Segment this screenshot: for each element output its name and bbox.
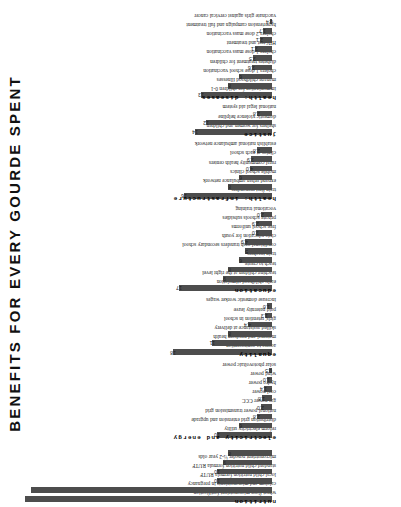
bar-value-label: 3.9	[246, 157, 253, 163]
bar	[250, 166, 272, 172]
bar	[248, 322, 272, 328]
bar-value-label: 4.9	[241, 239, 248, 245]
bar-value-label: 2.0	[257, 212, 264, 218]
bar-value-label: 2.8	[252, 111, 259, 117]
bar-value-label: 4.4	[244, 322, 251, 328]
bar	[239, 257, 272, 263]
group-label: education	[234, 287, 276, 294]
bar-value-label: 2.0	[257, 405, 264, 411]
bar-value-label: 6	[239, 258, 242, 264]
bar	[206, 120, 272, 126]
bar	[239, 423, 272, 429]
bar-value-label: 3.5	[249, 56, 256, 62]
bar-value-label: 1.3	[261, 313, 268, 319]
bar-value-label: 2.1	[256, 37, 263, 43]
bar-value-label: 10	[214, 469, 220, 475]
rotated-figure-wrapper: BENEFITS FOR EVERY GOURDE SPENT wheat fl…	[0, 0, 401, 507]
bar	[245, 239, 272, 245]
category-label: national legal aid system	[223, 105, 276, 111]
bar	[223, 460, 272, 466]
group-label: health: diseases	[201, 94, 276, 101]
bar	[228, 450, 272, 456]
bar	[239, 74, 272, 80]
bar-value-label: 0.5	[265, 368, 272, 374]
bar-value-label: 1.4	[260, 386, 267, 392]
bar-value-label: 0.4	[266, 19, 273, 25]
bar-value-label: 1.8	[258, 396, 265, 402]
bar	[228, 331, 272, 337]
bar-value-label: 5	[245, 249, 248, 255]
category-label: solar photovoltaic power	[222, 362, 276, 368]
bar-value-label: 3.6	[248, 65, 255, 71]
bar-value-label: 2.9	[252, 221, 259, 227]
bar-value-label: 2.8	[252, 414, 259, 420]
plot-area: wheat flour micronutrient fortificationc…	[30, 0, 272, 507]
chart-title: BENEFITS FOR EVERY GOURDE SPENT	[6, 0, 23, 507]
bar-value-label: 11	[209, 340, 214, 346]
bar-value-label: 12	[203, 120, 209, 126]
category-label: hypertension campaign and full treatment	[186, 22, 276, 28]
group-label: justice	[243, 131, 276, 138]
bar-value-label: 14	[192, 129, 198, 135]
bar-value-label: 9	[223, 276, 226, 282]
bar-value-label: 18	[170, 350, 176, 356]
bar-value-label: 1.7	[258, 28, 265, 34]
category-label: wind power	[250, 371, 276, 377]
bar-value-label: 8	[228, 331, 231, 337]
bar	[217, 469, 272, 475]
bar	[223, 276, 272, 282]
bar	[252, 65, 272, 71]
bar-value-label: 6	[239, 175, 242, 181]
bar-value-label: 17	[176, 285, 182, 291]
bar	[31, 487, 272, 493]
group-label: equality	[238, 351, 276, 358]
category-label: increase domestic worker wages	[206, 297, 276, 303]
bar-value-label: 8	[228, 184, 231, 190]
category-label: vocational training	[235, 206, 276, 212]
bar-value-label: 10	[214, 478, 220, 484]
figure-stage: BENEFITS FOR EVERY GOURDE SPENT wheat fl…	[0, 0, 401, 507]
bar-value-label: 6	[239, 423, 242, 429]
bar-value-label: 2.8	[252, 148, 259, 154]
category-label: vaccinate girls against cervical cancer	[194, 13, 276, 19]
bar	[217, 478, 272, 484]
bar-value-label: 8	[228, 451, 231, 457]
group-label: health: infrastructure	[173, 195, 276, 202]
bar	[239, 175, 272, 181]
bar	[245, 248, 272, 254]
bar-value-label: 1.0	[262, 304, 269, 310]
bar	[228, 184, 272, 190]
bar-chart-figure: BENEFITS FOR EVERY GOURDE SPENT wheat fl…	[0, 0, 401, 507]
bar-value-label: 4.0	[246, 166, 253, 172]
bar	[228, 267, 272, 273]
bar-value-label: 8	[228, 83, 231, 89]
bar-value-label: 1.0	[262, 377, 269, 383]
category-label: establish national ambulance network	[195, 141, 276, 147]
bar-value-label: 6	[239, 74, 242, 80]
bar	[212, 340, 272, 346]
bar-value-label: 9	[223, 460, 226, 466]
bar-value-label: 3.0	[251, 230, 258, 236]
bar-value-label: 3.1	[251, 46, 258, 52]
group-label: electricity and energy	[173, 434, 276, 441]
bar	[228, 83, 272, 89]
group-label: nutrition	[234, 498, 276, 505]
bar-value-label: 8	[228, 267, 231, 273]
